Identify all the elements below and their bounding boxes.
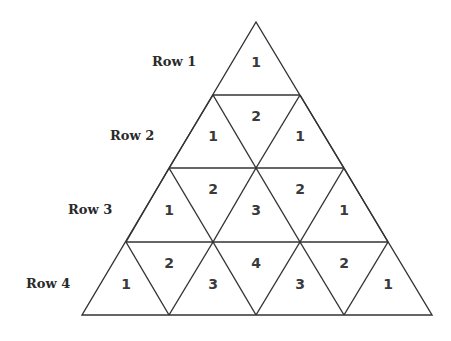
cell-r3-c4: 2 [295, 181, 305, 197]
cell-r2-c1: 1 [208, 128, 218, 144]
cell-r4-c4: 4 [251, 255, 261, 271]
diagonal [300, 95, 344, 168]
diagonal [213, 242, 256, 315]
diagonal [256, 242, 300, 315]
cell-r3-c1: 1 [164, 202, 174, 218]
row-label-2: Row 2 [110, 128, 154, 143]
row-label-3: Row 3 [68, 202, 112, 217]
diagonal [126, 242, 169, 315]
diagonal [213, 95, 256, 168]
diagonal [213, 168, 256, 242]
cell-r3-c5: 1 [339, 202, 349, 218]
diagonal [256, 168, 300, 242]
cell-r3-c2: 2 [208, 181, 218, 197]
row-label-4: Row 4 [26, 276, 70, 291]
cell-r4-c3: 3 [208, 276, 218, 292]
diagonal [344, 242, 388, 315]
cell-r4-c2: 2 [164, 255, 174, 271]
diagonal [256, 95, 300, 168]
diagonal [169, 168, 213, 242]
diagonal [169, 242, 213, 315]
cell-r4-c1: 1 [121, 276, 131, 292]
triangle-diagram: Row 1 Row 2 Row 3 Row 4 1 1 2 1 1 2 3 2 … [0, 0, 451, 341]
cell-r4-c5: 3 [295, 276, 305, 292]
diagonal [300, 242, 344, 315]
diagonal [300, 168, 344, 242]
diagonal [126, 168, 169, 242]
cell-r2-c2: 2 [251, 108, 261, 124]
row-label-1: Row 1 [152, 54, 196, 69]
cell-r1-c1: 1 [251, 54, 261, 70]
diagonal [169, 95, 213, 168]
diagonal [344, 168, 388, 242]
cell-r4-c6: 2 [339, 255, 349, 271]
cell-r3-c3: 3 [251, 202, 261, 218]
cell-r4-c7: 1 [383, 276, 393, 292]
cell-r2-c3: 1 [295, 128, 305, 144]
